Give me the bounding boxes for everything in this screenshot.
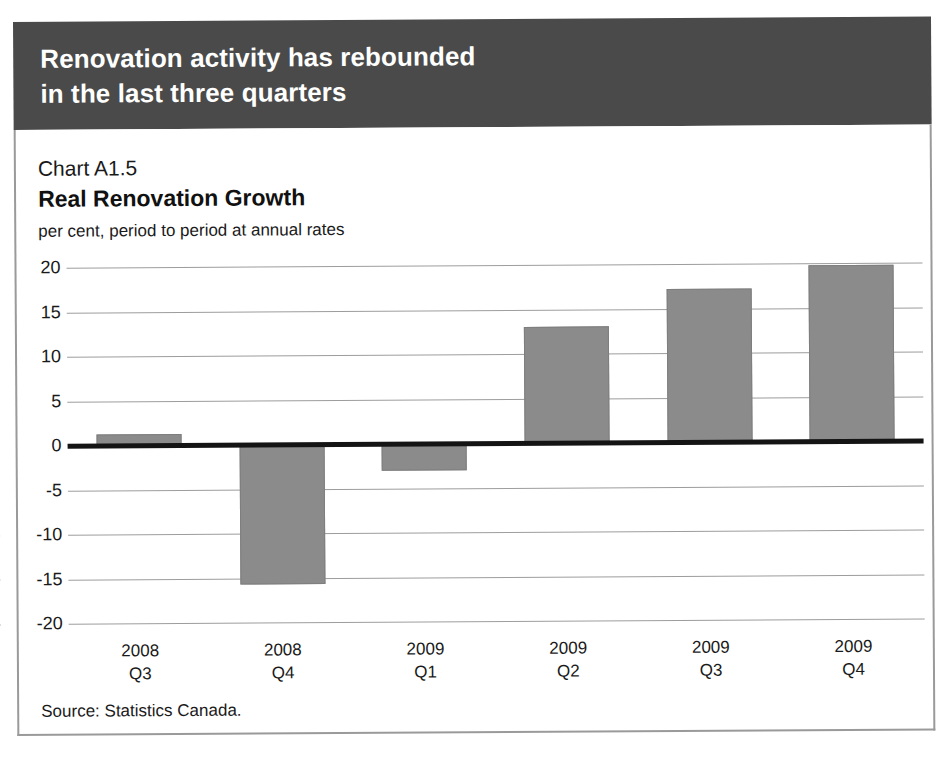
gridline [67, 396, 923, 402]
bar [239, 444, 325, 584]
chart-units-subtitle: per cent, period to period at annual rat… [38, 220, 344, 242]
chart-panel: Chart A1.5 Real Renovation Growth per ce… [14, 124, 936, 736]
x-axis-year: 2009 [508, 636, 628, 660]
x-axis-tick-label: 2009Q4 [793, 635, 913, 682]
bar [809, 264, 895, 441]
x-axis-tick-label: 2008Q3 [80, 639, 200, 686]
chart-source-note: Source: Statistics Canada. [41, 701, 241, 722]
x-axis-tick-label: 2009Q2 [508, 636, 628, 683]
x-axis-year: 2009 [365, 637, 485, 661]
y-axis-tick-label: -5 [2, 480, 62, 501]
scanned-page: Renovation activity has rebounded in the… [0, 0, 952, 767]
banner-line-2: in the last three quarters [40, 71, 931, 111]
gridline [68, 485, 924, 491]
y-axis-tick-label: -10 [2, 524, 62, 545]
gridline [67, 262, 923, 268]
gridline [67, 351, 923, 357]
gridline [68, 529, 924, 535]
x-axis-tick-label: 2009Q3 [651, 635, 771, 682]
chart-number: Chart A1.5 [38, 156, 137, 181]
bar-chart-plot-area: 20151050-5-10-15-202008Q32008Q42009Q1200… [67, 262, 925, 623]
x-axis-year: 2008 [80, 639, 200, 663]
x-axis-quarter: Q4 [794, 658, 914, 682]
banner-headline: Renovation activity has rebounded in the… [13, 16, 932, 130]
x-axis-quarter: Q2 [508, 659, 628, 683]
y-axis-tick-label: -20 [3, 613, 63, 634]
y-axis-tick-mark [0, 624, 1, 625]
gridline [67, 307, 923, 313]
x-axis-quarter: Q4 [223, 661, 343, 685]
x-axis-quarter: Q3 [80, 662, 200, 686]
banner-line-1: Renovation activity has rebounded [40, 36, 931, 76]
gridline [68, 574, 924, 580]
bar [666, 288, 752, 442]
y-axis-tick-label: 10 [1, 346, 61, 367]
y-axis-tick-label: 0 [2, 435, 62, 456]
x-axis-year: 2009 [793, 635, 913, 659]
bar [524, 327, 610, 443]
figure-block: Renovation activity has rebounded in the… [13, 16, 935, 736]
y-axis-tick-label: -15 [2, 569, 62, 590]
page-title: Real Renovation Growth [38, 184, 305, 213]
x-axis-quarter: Q3 [651, 658, 771, 682]
zero-axis-line [68, 438, 924, 448]
x-axis-year: 2009 [651, 635, 771, 659]
x-axis-quarter: Q1 [366, 660, 486, 684]
x-axis-year: 2008 [223, 638, 343, 662]
y-axis-tick-label: 5 [1, 391, 61, 412]
y-axis-tick-label: 15 [1, 302, 61, 323]
x-axis-tick-label: 2008Q4 [223, 638, 343, 685]
gridline [69, 618, 925, 624]
y-axis-tick-label: 20 [0, 257, 60, 278]
bar [382, 443, 467, 470]
x-axis-tick-label: 2009Q1 [365, 637, 485, 684]
